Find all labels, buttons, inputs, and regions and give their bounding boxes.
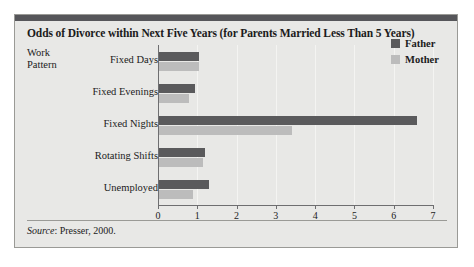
x-axis-tick-mark (394, 205, 395, 209)
bar-father (158, 84, 195, 93)
gridline (394, 45, 395, 205)
gridline (433, 45, 434, 205)
x-axis-tick-mark (354, 205, 355, 209)
top-rule-decoration (15, 15, 457, 21)
bar-father (158, 148, 205, 157)
legend-swatch-mother-icon (391, 55, 400, 64)
bar-mother (158, 94, 189, 103)
source-note: Source: Presser, 2000. (27, 225, 116, 236)
category-label: Unemployed (63, 182, 158, 193)
legend-item-mother: Mother (391, 53, 461, 66)
chart-title: Odds of Divorce within Next Five Years (… (27, 27, 451, 39)
category-labels: Fixed DaysFixed EveningsFixed NightsRota… (63, 45, 158, 205)
x-axis-tick-mark (197, 205, 198, 209)
gridline (354, 45, 355, 205)
bar-father (158, 180, 209, 189)
category-label: Fixed Days (63, 54, 158, 65)
category-label: Fixed Nights (63, 118, 158, 129)
source-divider (27, 220, 447, 221)
bar-father (158, 52, 199, 61)
gridline (315, 45, 316, 205)
plot-area (158, 45, 433, 205)
figure-card: Odds of Divorce within Next Five Years (… (14, 14, 458, 248)
plot-wrapper: Fixed DaysFixed EveningsFixed NightsRota… (15, 45, 459, 220)
bar-father (158, 116, 417, 125)
bar-mother (158, 62, 199, 71)
legend-label-father: Father (405, 38, 435, 49)
chart-legend: Father Mother (391, 37, 461, 69)
x-axis-tick-mark (158, 205, 159, 209)
category-label: Fixed Evenings (63, 86, 158, 97)
source-label: Source (27, 225, 54, 236)
legend-swatch-father-icon (391, 39, 400, 48)
legend-item-father: Father (391, 37, 461, 50)
bar-mother (158, 158, 203, 167)
category-label: Rotating Shifts (63, 150, 158, 161)
x-axis-tick-mark (276, 205, 277, 209)
y-axis-line (158, 45, 159, 206)
x-axis-tick-mark (315, 205, 316, 209)
source-text: Presser, 2000. (60, 225, 116, 236)
legend-label-mother: Mother (405, 54, 439, 65)
x-axis-tick-mark (433, 205, 434, 209)
x-axis-tick-mark (237, 205, 238, 209)
x-axis-line (158, 205, 434, 206)
bar-mother (158, 126, 292, 135)
bar-mother (158, 190, 193, 199)
